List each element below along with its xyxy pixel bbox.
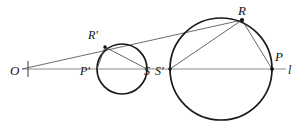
point-label-r: R [238,4,246,17]
diagram-canvas [0,0,303,127]
geometry-diagram: O P' R' S S' R P l [0,0,303,127]
point-label-r-prime: R' [88,29,98,41]
point-label-p-prime: P' [80,65,90,77]
point-label-p: P [275,50,283,63]
vertex-dot-rprime [103,45,106,48]
chord-r-p [242,20,272,69]
point-label-s-prime: S' [155,65,164,77]
chord-sprime-r [170,20,242,69]
line-label-l: l [288,64,291,76]
chord-pprime-rprime [97,47,105,69]
point-label-s: S [144,65,150,77]
vertex-dot-sprime [168,67,171,70]
point-label-o: O [10,64,19,77]
chord-rprime-s [105,47,147,69]
vertex-dot-p [270,67,274,71]
vertex-dot-r [240,18,244,22]
